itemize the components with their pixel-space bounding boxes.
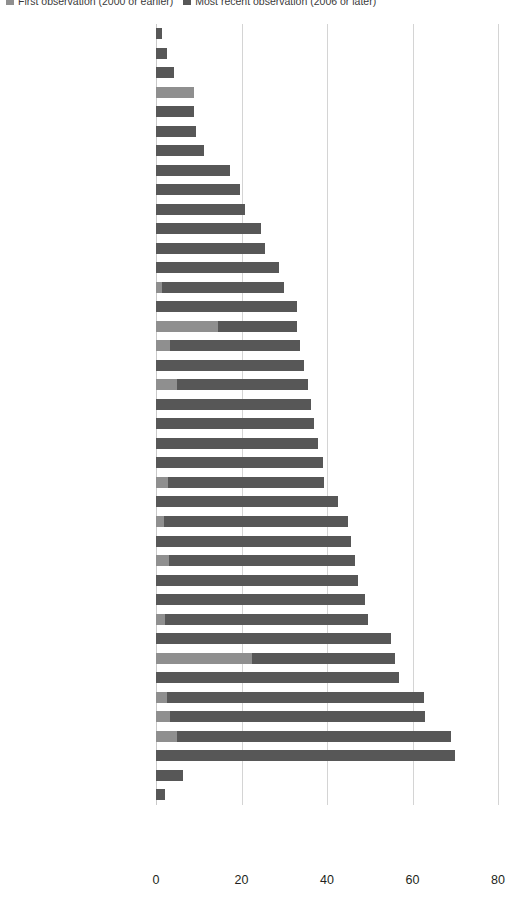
- bar-segment-most-recent-observation: [156, 496, 338, 507]
- bar-segment-first-observation: [156, 653, 252, 664]
- stacked-bar: [156, 340, 300, 351]
- chart-row: Burundi: [156, 512, 498, 532]
- stacked-bar: [156, 750, 455, 761]
- bar-segment-most-recent-observation: [156, 48, 167, 59]
- bar-segment-most-recent-observation: [156, 223, 261, 234]
- chart-row: Cameroon: [156, 200, 498, 220]
- chart-row: Gambia, The: [156, 317, 498, 337]
- bar-segment-most-recent-observation: [170, 711, 426, 722]
- chart-row: Côte d’Ivoire: [156, 44, 498, 64]
- chart-row: Ghana: [156, 453, 498, 473]
- chart-row: Mauritania (2004): [156, 785, 498, 805]
- bar-segment-most-recent-observation: [164, 516, 349, 527]
- stacked-bar: [156, 789, 165, 800]
- stacked-bar: [156, 321, 297, 332]
- chart-row: Namibia: [156, 336, 498, 356]
- chart-row: Central African Rep.: [156, 395, 498, 415]
- bar-segment-first-observation: [156, 555, 169, 566]
- bar-segment-most-recent-observation: [167, 692, 424, 703]
- bar-segment-most-recent-observation: [156, 770, 183, 781]
- chart-row: Nigeria: [156, 258, 498, 278]
- stacked-bar: [156, 418, 314, 429]
- bar-segment-first-observation: [156, 614, 165, 625]
- stacked-bar: [156, 145, 204, 156]
- chart-row: Eritrea: [156, 590, 498, 610]
- bar-segment-most-recent-observation: [156, 633, 391, 644]
- stacked-bar: [156, 106, 194, 117]
- bar-segment-most-recent-observation: [168, 477, 324, 488]
- chart-row: Senegal: [156, 356, 498, 376]
- bar-segment-first-observation: [156, 516, 164, 527]
- chart-row: Burkina Faso: [156, 571, 498, 591]
- x-axis-tick-label: 80: [491, 873, 505, 887]
- stacked-bar: [156, 184, 240, 195]
- x-axis-tick-label: 0: [153, 873, 160, 887]
- bar-segment-most-recent-observation: [156, 438, 318, 449]
- bar-segment-most-recent-observation: [156, 594, 365, 605]
- chart-root: First observation (2000 or earlier)Most …: [0, 0, 517, 908]
- stacked-bar: [156, 516, 348, 527]
- bar-segment-most-recent-observation: [156, 106, 194, 117]
- bar-segment-most-recent-observation: [252, 653, 395, 664]
- bar-segment-most-recent-observation: [169, 555, 355, 566]
- stacked-bar: [156, 555, 355, 566]
- stacked-bar: [156, 379, 308, 390]
- stacked-bar: [156, 87, 194, 98]
- chart-row: Ethiopia: [156, 297, 498, 317]
- bar-segment-first-observation: [156, 477, 168, 488]
- bar-segment-most-recent-observation: [156, 418, 314, 429]
- bar-segment-most-recent-observation: [162, 282, 284, 293]
- legend-entry: Most recent observation (2006 or later): [183, 0, 376, 6]
- bar-segment-most-recent-observation: [156, 672, 399, 683]
- stacked-bar: [156, 360, 304, 371]
- legend-swatch-icon: [6, 0, 14, 5]
- bar-segment-most-recent-observation: [156, 243, 265, 254]
- chart-row: Comoros: [156, 83, 498, 103]
- chart-row: Congo, Dem. Rep.: [156, 434, 498, 454]
- chart-row: Guinea-Bissau: [156, 375, 498, 395]
- stacked-bar: [156, 262, 279, 273]
- x-axis-tick-label: 40: [320, 873, 334, 887]
- stacked-bar: [156, 48, 167, 59]
- chart-row: Zambia: [156, 610, 498, 630]
- x-axis-tick-label: 60: [406, 873, 420, 887]
- chart-row: Malawi: [156, 473, 498, 493]
- bar-segment-most-recent-observation: [156, 145, 204, 156]
- bar-segment-most-recent-observation: [156, 575, 358, 586]
- bar-segment-most-recent-observation: [156, 28, 162, 39]
- chart-row: Angola: [156, 239, 498, 259]
- stacked-bar: [156, 457, 323, 468]
- bar-segment-most-recent-observation: [156, 750, 455, 761]
- legend-swatch-icon: [183, 0, 191, 5]
- legend-label: First observation (2000 or earlier): [18, 0, 173, 6]
- bar-segment-most-recent-observation: [156, 67, 174, 78]
- plot-area: SwazilandCôte d’IvoireGuineaComorosZimba…: [156, 24, 498, 805]
- chart-row: Benin: [156, 180, 498, 200]
- chart-row: Mali: [156, 746, 498, 766]
- x-axis: 020406080: [156, 869, 498, 899]
- stacked-bar: [156, 536, 351, 547]
- chart-legend: First observation (2000 or earlier)Most …: [6, 0, 376, 8]
- bar-segment-most-recent-observation: [156, 360, 304, 371]
- bar-segment-first-observation: [156, 692, 167, 703]
- bar-segment-most-recent-observation: [156, 301, 297, 312]
- chart-row: Gabon: [156, 629, 498, 649]
- bar-segment-most-recent-observation: [156, 399, 311, 410]
- chart-row: Mozambique: [156, 161, 498, 181]
- chart-row: Congo, Rep. (2005): [156, 766, 498, 786]
- bar-segment-most-recent-observation: [156, 184, 240, 195]
- chart-row: Uganda: [156, 492, 498, 512]
- x-axis-tick-label: 20: [235, 873, 249, 887]
- bar-segment-first-observation: [156, 340, 170, 351]
- chart-row: Somalia: [156, 141, 498, 161]
- chart-row: Kenya: [156, 551, 498, 571]
- stacked-bar: [156, 731, 451, 742]
- stacked-bar: [156, 204, 245, 215]
- bar-segment-most-recent-observation: [156, 789, 165, 800]
- stacked-bar: [156, 614, 368, 625]
- stacked-bar: [156, 653, 395, 664]
- stacked-bar: [156, 770, 183, 781]
- bar-segment-most-recent-observation: [156, 126, 196, 137]
- bar-segment-most-recent-observation: [165, 614, 368, 625]
- stacked-bar: [156, 594, 365, 605]
